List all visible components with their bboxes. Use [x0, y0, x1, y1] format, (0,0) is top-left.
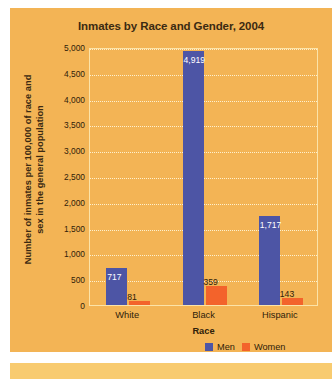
y-axis-tick-label: 2,000	[15, 198, 85, 208]
y-axis-tick-label: 0	[15, 301, 85, 311]
bar-value-black-women: 359	[204, 277, 218, 287]
legend-item-men[interactable]: Men	[205, 342, 235, 352]
legend-swatch-women-icon	[242, 343, 250, 351]
bar-value-hispanic-women: 143	[280, 289, 294, 299]
chart-title: Inmates by Race and Gender, 2004	[10, 20, 332, 32]
bar-value-white-men: 717	[107, 272, 121, 282]
x-axis-label-black: Black	[165, 310, 241, 320]
figure-panel: Inmates by Race and Gender, 2004 Number …	[10, 8, 332, 352]
y-axis-tick-label: 1,000	[15, 249, 85, 259]
bottom-decorative-band	[10, 363, 332, 379]
bar-black-women	[206, 286, 227, 305]
y-axis-tick-label: 4,500	[15, 69, 85, 79]
legend-label: Men	[217, 342, 235, 352]
legend-swatch-men-icon	[205, 343, 213, 351]
bar-value-hispanic-men: 1,717	[260, 220, 282, 230]
legend-item-women[interactable]: Women	[242, 342, 286, 352]
y-axis-tick-label: 5,000	[15, 43, 85, 53]
y-axis-tick-label: 1,500	[15, 224, 85, 234]
bars-layer: 717814,9193591,717143	[90, 49, 317, 305]
y-axis-tick-label: 4,000	[15, 95, 85, 105]
x-axis-label-hispanic: Hispanic	[242, 310, 318, 320]
plot-area: 717814,9193591,717143	[89, 48, 318, 306]
x-axis-label-white: White	[89, 310, 165, 320]
bar-hispanic-women	[282, 298, 303, 305]
bar-black-men	[183, 51, 204, 305]
y-axis-tick-label: 3,500	[15, 120, 85, 130]
legend-label: Women	[254, 342, 286, 352]
y-axis-tick-labels: 05001,0001,5002,0002,5003,0003,5004,0004…	[13, 48, 85, 306]
y-axis-tick-label: 2,500	[15, 172, 85, 182]
x-axis-title: Race	[89, 326, 318, 336]
bar-value-black-men: 4,919	[184, 55, 206, 65]
chart-legend: MenWomen	[205, 342, 285, 352]
chart-figure: Inmates by Race and Gender, 2004 Number …	[0, 0, 332, 379]
y-axis-tick-label: 500	[15, 275, 85, 285]
bar-value-white-women: 81	[127, 292, 137, 302]
y-axis-tick-label: 3,000	[15, 146, 85, 156]
